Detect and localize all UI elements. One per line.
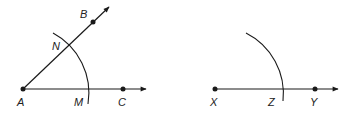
point-C — [121, 87, 126, 92]
label-Z: Z — [267, 96, 276, 108]
label-Y: Y — [310, 96, 318, 108]
label-X: X — [209, 96, 218, 108]
label-A: A — [16, 96, 24, 108]
label-B: B — [80, 8, 87, 20]
ray-figure: X Z Y — [209, 33, 338, 108]
label-N: N — [52, 40, 60, 52]
label-C: C — [118, 96, 126, 108]
point-A — [21, 87, 26, 92]
geometry-diagram: A B C N M X Z Y — [0, 0, 353, 114]
arc-Z — [246, 33, 283, 101]
label-M: M — [74, 96, 84, 108]
point-X — [213, 87, 218, 92]
angle-figure: A B C N M — [16, 7, 146, 108]
point-B — [91, 20, 96, 25]
diagram-svg: A B C N M X Z Y — [0, 0, 353, 114]
ray-AB — [23, 7, 109, 89]
point-Y — [313, 87, 318, 92]
